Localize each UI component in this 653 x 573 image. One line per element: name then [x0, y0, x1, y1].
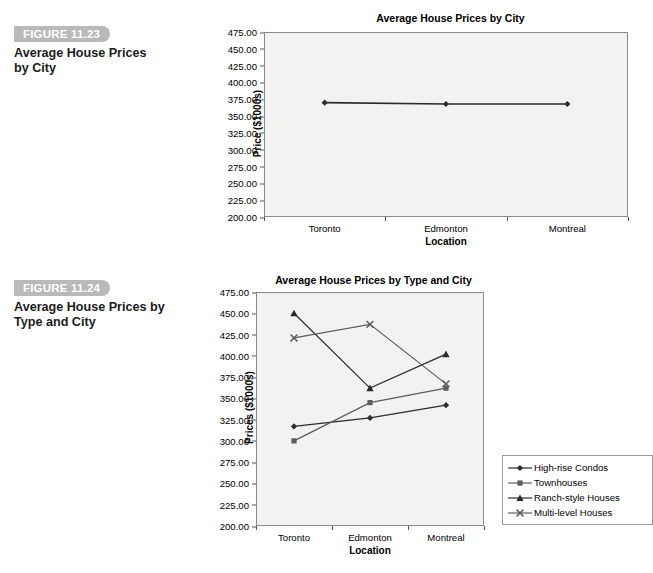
chart-2-y-tick: 350.00 — [220, 393, 256, 404]
chart-2-x-tick-mark — [484, 526, 485, 530]
chart-2-y-tick: 300.00 — [220, 435, 256, 446]
legend-row-multi-level-houses[interactable]: Multi-level Houses — [507, 505, 646, 520]
figure-title-1123: Average House Prices by City — [14, 46, 194, 76]
chart-2-y-tick: 225.00 — [220, 499, 256, 510]
chart-2-x-label-montreal: Montreal — [427, 532, 464, 543]
chart-2-y-tick: 475.00 — [220, 287, 256, 298]
legend-label: Townhouses — [533, 477, 587, 488]
chart-2-series-layer — [256, 292, 556, 442]
figure-tag-1123: FIGURE 11.23 — [14, 26, 110, 42]
chart-2-x-tick-mark — [256, 526, 257, 530]
chart-title-2: Average House Prices by Type and City — [250, 274, 497, 286]
figure-title-1124-line2: Type and City — [14, 315, 96, 329]
chart-1-x-label-toronto: Toronto — [309, 223, 341, 234]
chart-average-house-prices-by-city: Average House Prices by City Price ($100… — [198, 8, 643, 258]
chart-1-y-tick: 200.00 — [228, 212, 264, 223]
figure-title-1124: Average House Prices by Type and City — [14, 300, 194, 330]
chart-1-y-tick: 400.00 — [228, 77, 264, 88]
series-line-multi-level-houses — [294, 324, 446, 384]
legend-label: High-rise Condos — [533, 462, 608, 473]
chart-2-x-axis-title: Location — [256, 545, 484, 556]
legend-label: Ranch-style Houses — [533, 492, 620, 503]
chart-2-y-tick: 375.00 — [220, 372, 256, 383]
chart-2-legend: High-rise CondosTownhousesRanch-style Ho… — [502, 455, 653, 525]
legend-key-square-icon — [507, 477, 533, 489]
chart-1-y-tick: 250.00 — [228, 178, 264, 189]
chart-1-x-label-montreal: Montreal — [549, 223, 586, 234]
chart-1-x-label-edmonton: Edmonton — [424, 223, 468, 234]
chart-1-plot-area: Location 200.00225.00250.00275.00300.003… — [264, 32, 628, 217]
chart-average-house-prices-by-type-and-city: Average House Prices by Type and City Pr… — [192, 272, 497, 562]
chart-1-y-tick: 475.00 — [228, 27, 264, 38]
chart-2-x-label-edmonton: Edmonton — [348, 532, 392, 543]
figure-tag-1124: FIGURE 11.24 — [14, 280, 110, 296]
chart-1-y-tick: 350.00 — [228, 111, 264, 122]
chart-1-y-tick: 450.00 — [228, 43, 264, 54]
chart-1-y-tick: 300.00 — [228, 144, 264, 155]
figure-title-1123-line2: by City — [14, 61, 56, 75]
legend-key-x-icon — [507, 507, 533, 519]
chart-1-y-tick: 275.00 — [228, 161, 264, 172]
series-line-townhouses — [294, 388, 446, 441]
chart-2-y-tick: 450.00 — [220, 308, 256, 319]
page-root: FIGURE 11.23 Average House Prices by Cit… — [0, 0, 653, 573]
figure-title-1123-line1: Average House Prices — [14, 46, 147, 60]
chart-2-plot-area: Location 200.00225.00250.00275.00300.003… — [256, 292, 484, 526]
chart-2-y-tick: 400.00 — [220, 350, 256, 361]
chart-2-x-tick-mark — [408, 526, 409, 530]
legend-row-ranch-style-houses[interactable]: Ranch-style Houses — [507, 490, 646, 505]
chart-2-y-tick: 425.00 — [220, 329, 256, 340]
chart-2-x-label-toronto: Toronto — [278, 532, 310, 543]
chart-1-y-tick: 425.00 — [228, 60, 264, 71]
chart-1-y-tick: 225.00 — [228, 195, 264, 206]
chart-2-y-tick: 325.00 — [220, 414, 256, 425]
chart-1-x-tick-mark — [264, 217, 265, 221]
chart-title-1: Average House Prices by City — [258, 12, 643, 24]
chart-1-y-tick: 325.00 — [228, 127, 264, 138]
figure-title-1124-line1: Average House Prices by — [14, 300, 165, 314]
figure-caption-1123: FIGURE 11.23 Average House Prices by Cit… — [14, 24, 194, 76]
chart-1-x-tick-mark — [507, 217, 508, 221]
chart-1-series-layer — [264, 32, 564, 182]
legend-key-triangle-icon — [507, 492, 533, 504]
chart-1-x-axis-title: Location — [264, 236, 628, 247]
chart-2-y-tick: 200.00 — [220, 521, 256, 532]
chart-1-x-tick-mark — [385, 217, 386, 221]
chart-2-y-tick: 250.00 — [220, 478, 256, 489]
chart-1-y-tick: 375.00 — [228, 94, 264, 105]
legend-key-diamond-icon — [507, 462, 533, 474]
legend-row-high-rise-condos[interactable]: High-rise Condos — [507, 460, 646, 475]
chart-1-x-tick-mark — [628, 217, 629, 221]
legend-row-townhouses[interactable]: Townhouses — [507, 475, 646, 490]
figure-caption-1124: FIGURE 11.24 Average House Prices by Typ… — [14, 278, 194, 330]
chart-2-x-tick-mark — [332, 526, 333, 530]
legend-label: Multi-level Houses — [533, 507, 612, 518]
chart-2-y-tick: 275.00 — [220, 457, 256, 468]
